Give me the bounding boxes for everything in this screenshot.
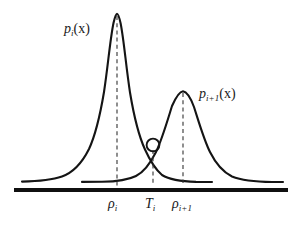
intersection-circle-icon [147, 139, 160, 152]
axis-label-rho-i-plus-1-base: ρ [172, 196, 179, 211]
axis-label-t-i-subscript: i [153, 203, 156, 213]
axis-label-rho-i-base: ρ [108, 196, 115, 211]
label-p-i-plus-1: pi+1(x) [199, 87, 236, 102]
label-p-i: pi(x) [64, 22, 90, 37]
label-p-i-plus-1-argument: (x) [219, 86, 235, 101]
axis-label-t-i-base: T [145, 196, 153, 211]
axis-label-rho-i-plus-1: ρi+1 [172, 197, 192, 212]
axis-label-rho-i-subscript: i [115, 203, 118, 213]
axis-label-rho-i-plus-1-subscript: i+1 [179, 203, 192, 213]
label-p-i-base: p [64, 21, 71, 36]
axis-label-t-i: Ti [145, 197, 155, 212]
probability-density-figure: pi(x) pi+1(x) ρi Ti ρi+1 [0, 0, 303, 230]
label-p-i-argument: (x) [74, 21, 90, 36]
axis-label-rho-i: ρi [108, 197, 117, 212]
label-p-i-plus-1-base: p [199, 86, 206, 101]
label-p-i-plus-1-subscript: i+1 [206, 93, 219, 103]
